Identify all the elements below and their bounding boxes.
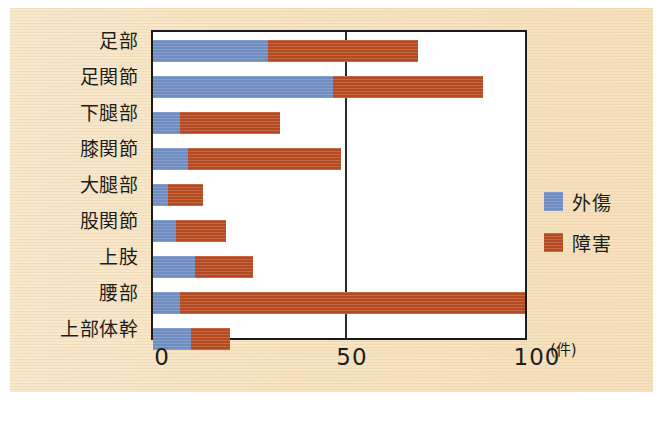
axis-unit-label: (件): [550, 338, 577, 359]
bar-row: [153, 292, 525, 314]
legend-item-1: 障害: [544, 229, 644, 256]
bar-segment-gaisho: [153, 76, 333, 98]
legend: 外傷 障害: [544, 188, 644, 270]
legend-label-1: 障害: [572, 229, 611, 256]
bar-segment-shogai: [333, 76, 483, 98]
bar-segment-shogai: [188, 148, 342, 170]
category-label-7: 腰部: [99, 282, 138, 304]
bar-row: [153, 148, 525, 170]
category-label-5: 股関節: [80, 210, 139, 232]
legend-item-0: 外傷: [544, 188, 644, 215]
category-label-3: 膝関節: [80, 138, 139, 160]
bar-rows: [153, 32, 525, 338]
bar-segment-shogai: [168, 184, 203, 206]
figure-panel: 足部 足関節 下腿部 膝関節 大腿部 股関節 上肢 腰部 上部体幹 0 50 1…: [10, 8, 653, 392]
bar-segment-shogai: [180, 292, 526, 314]
bar-segment-shogai: [180, 112, 280, 134]
bar-segment-shogai: [195, 256, 253, 278]
category-label-4: 大腿部: [80, 174, 139, 196]
legend-swatch-icon-0: [544, 192, 563, 211]
legend-swatch-icon-1: [544, 233, 563, 252]
bar-segment-shogai: [268, 40, 418, 62]
bar-row: [153, 256, 525, 278]
bar-row: [153, 40, 525, 62]
category-axis-labels: 足部 足関節 下腿部 膝関節 大腿部 股関節 上肢 腰部 上部体幹: [10, 30, 146, 340]
bar-segment-gaisho: [153, 256, 195, 278]
figure-caption: [18, 404, 638, 421]
plot-area: [151, 30, 527, 340]
bar-row: [153, 220, 525, 242]
category-label-2: 下腿部: [80, 102, 139, 124]
bar-segment-gaisho: [153, 292, 180, 314]
bar-row: [153, 76, 525, 98]
legend-label-0: 外傷: [572, 188, 611, 215]
category-label-6: 上肢: [99, 246, 138, 268]
bar-segment-gaisho: [153, 148, 188, 170]
bar-segment-gaisho: [153, 220, 176, 242]
bar-segment-gaisho: [153, 112, 180, 134]
category-label-0: 足部: [99, 30, 138, 52]
bar-row: [153, 112, 525, 134]
bar-segment-gaisho: [153, 184, 168, 206]
bar-segment-gaisho: [153, 40, 268, 62]
category-label-8: 上部体幹: [60, 318, 138, 340]
bar-row: [153, 184, 525, 206]
xtick-0: 0: [154, 344, 170, 370]
xtick-50: 50: [336, 344, 367, 370]
bar-segment-shogai: [176, 220, 226, 242]
category-label-1: 足関節: [80, 66, 139, 88]
